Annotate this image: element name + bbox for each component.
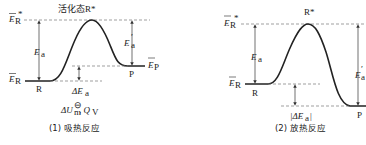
er-star-label: E R * <box>223 13 239 30</box>
er-star-label: E R * <box>8 9 23 26</box>
svg-text:E: E <box>354 70 361 80</box>
ea-label: E a <box>250 52 262 64</box>
activated-state-label: 活化态R* <box>58 3 96 14</box>
svg-text:E: E <box>8 14 15 24</box>
svg-text:ΔE: ΔE <box>71 86 83 96</box>
svg-text:P: P <box>154 62 159 72</box>
ea-prime-label: E a ′ <box>354 64 365 82</box>
svg-text:E: E <box>123 38 130 48</box>
svg-text:a: a <box>85 88 89 98</box>
reactant-label: R <box>36 84 42 94</box>
endothermic-diagram: 活化态R* E R * E a E R <box>8 3 159 133</box>
svg-text:E: E <box>33 47 40 57</box>
svg-text:E: E <box>223 18 230 28</box>
svg-text:E: E <box>228 78 235 88</box>
svg-text:R: R <box>235 80 241 90</box>
svg-text:, Q: , Q <box>79 105 91 115</box>
caption-endothermic: (1) 吸热反应 <box>49 123 100 133</box>
svg-text:ΔU: ΔU <box>60 105 73 115</box>
svg-text:E: E <box>147 60 154 70</box>
er-label: E R <box>8 74 21 87</box>
thermo-label: ΔU m ⊖ , Q V <box>60 100 99 117</box>
ep-label: E P <box>147 58 159 72</box>
exothermic-diagram: R* E R * E a E R E <box>223 7 366 133</box>
ea-prime-label: E a ′ <box>123 32 135 50</box>
reaction-curve <box>245 24 366 106</box>
svg-text:*: * <box>234 13 239 23</box>
svg-text:*: * <box>18 9 23 19</box>
activated-state-label: R* <box>304 7 315 17</box>
product-label: P <box>357 110 362 120</box>
svg-text:′: ′ <box>131 32 133 42</box>
delta-ea-label: ΔE a <box>71 86 89 98</box>
svg-text:V: V <box>92 107 99 117</box>
svg-text:E: E <box>8 74 15 84</box>
svg-text:a: a <box>305 113 309 123</box>
product-label: P <box>129 69 134 79</box>
svg-text:a: a <box>258 54 262 64</box>
svg-text:|ΔE: |ΔE <box>290 111 304 121</box>
reactant-label: R <box>252 88 258 98</box>
svg-text:R: R <box>15 76 21 86</box>
svg-text:E: E <box>250 52 257 62</box>
svg-text:|: | <box>310 111 312 121</box>
caption-exothermic: (2) 放热反应 <box>275 123 326 133</box>
er-label: E R <box>228 77 241 90</box>
svg-text:a: a <box>41 49 45 59</box>
svg-text:′: ′ <box>361 64 363 74</box>
energy-diagrams: 活化态R* E R * E a E R <box>0 0 366 145</box>
delta-ea-label: |ΔE a | <box>290 111 312 123</box>
